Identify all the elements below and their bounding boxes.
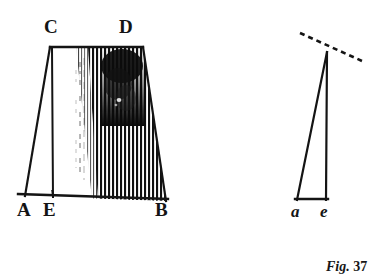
label-A: A — [17, 200, 31, 219]
label-a: a — [291, 203, 300, 220]
hatched-shading — [74, 44, 172, 204]
figure-caption-prefix: Fig. — [326, 259, 350, 274]
label-E: E — [43, 200, 56, 219]
left-trapezoid-group — [18, 44, 172, 204]
edge-apex-a — [297, 52, 327, 200]
label-D: D — [119, 17, 133, 36]
edge-CE — [52, 48, 53, 197]
label-e: e — [320, 203, 328, 220]
dashed-tangent-line — [300, 33, 362, 61]
label-C: C — [44, 17, 58, 36]
edge-CA — [25, 47, 50, 196]
label-B: B — [155, 200, 168, 219]
edge-apex-e — [326, 52, 327, 200]
right-triangle-group — [295, 33, 362, 200]
figure-caption-number: 37 — [353, 259, 367, 274]
tick-E — [52, 190, 53, 197]
figure-caption: Fig. 37 — [312, 243, 367, 278]
